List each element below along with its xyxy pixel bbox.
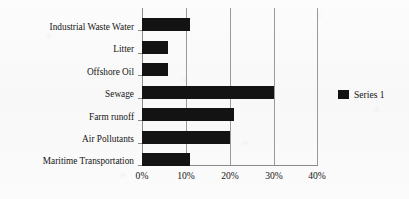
bar-farm-runoff[interactable]: [142, 108, 234, 121]
bar-litter[interactable]: [142, 41, 168, 54]
x-tick-label: 40%: [308, 170, 326, 181]
category-label: Farm runoff: [89, 112, 134, 122]
bar-industrial-waste-water[interactable]: [142, 18, 190, 31]
bar-series: [142, 8, 318, 166]
plot-area: [142, 8, 318, 166]
bar-offshore-oil[interactable]: [142, 63, 168, 76]
category-label: Industrial Waste Water: [50, 22, 134, 32]
x-tick-label: 30%: [265, 170, 283, 181]
x-tick-label: 20%: [221, 170, 239, 181]
category-label: Air Pollutants: [82, 134, 134, 144]
bar-row: [142, 18, 318, 31]
x-tick-label: 10%: [177, 170, 195, 181]
bar-maritime-transportation[interactable]: [142, 153, 190, 166]
x-axis-labels: 0% 10% 20% 30% 40%: [142, 170, 318, 186]
category-label: Offshore Oil: [87, 67, 134, 77]
category-label: Litter: [113, 44, 134, 54]
bar-chart: Industrial Waste Water Litter Offshore O…: [0, 0, 409, 199]
bar-row: [142, 153, 318, 166]
x-tick-label: 0%: [136, 170, 149, 181]
bar-sewage[interactable]: [142, 86, 274, 99]
bar-row: [142, 86, 318, 99]
bar-row: [142, 131, 318, 144]
bar-air-pollutants[interactable]: [142, 131, 230, 144]
category-axis-labels: Industrial Waste Water Litter Offshore O…: [0, 8, 138, 166]
chart-legend: Series 1: [338, 89, 385, 100]
category-label: Sewage: [105, 89, 134, 99]
bar-row: [142, 108, 318, 121]
legend-label: Series 1: [354, 89, 385, 100]
legend-swatch-icon: [338, 90, 349, 99]
category-label: Maritime Transportation: [43, 156, 134, 166]
bar-row: [142, 41, 318, 54]
bar-row: [142, 63, 318, 76]
